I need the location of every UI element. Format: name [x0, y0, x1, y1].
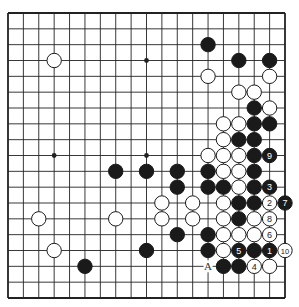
white-stone — [232, 148, 246, 162]
black-stone — [232, 132, 246, 146]
white-stone — [216, 164, 230, 178]
move-number: 6 — [267, 230, 272, 240]
black-stone — [247, 101, 261, 115]
black-stone — [201, 227, 215, 241]
black-stone — [262, 53, 276, 67]
white-stone — [232, 227, 246, 241]
white-stone — [216, 243, 230, 257]
black-stone — [247, 164, 261, 178]
black-stone — [201, 243, 215, 257]
black-stone — [232, 212, 246, 226]
white-stone — [247, 227, 261, 241]
white-stone — [232, 164, 246, 178]
black-stone — [247, 148, 261, 162]
white-stone — [216, 227, 230, 241]
black-stone — [78, 259, 92, 273]
move-number: 10 — [281, 247, 289, 256]
star-point — [144, 58, 149, 63]
black-stone — [139, 243, 153, 257]
white-stone — [185, 212, 199, 226]
black-stone — [216, 180, 230, 194]
go-board: 12345678910 A — [0, 0, 299, 307]
black-stone — [216, 259, 230, 273]
white-stone — [109, 212, 123, 226]
white-stone — [247, 212, 261, 226]
white-stone — [232, 85, 246, 99]
move-number: 3 — [267, 182, 272, 192]
white-stone — [185, 196, 199, 210]
white-stone — [155, 212, 169, 226]
white-stone — [262, 101, 276, 115]
black-stone — [170, 180, 184, 194]
black-stone — [170, 227, 184, 241]
white-stone — [232, 117, 246, 131]
white-stone — [262, 69, 276, 83]
move-number: 8 — [267, 214, 272, 224]
white-stone — [201, 69, 215, 83]
white-stone — [155, 196, 169, 210]
black-stone — [247, 117, 261, 131]
white-stone — [247, 85, 261, 99]
black-stone — [232, 196, 246, 210]
white-stone — [216, 132, 230, 146]
move-number: 2 — [267, 198, 272, 208]
black-stone — [262, 117, 276, 131]
white-stone — [216, 148, 230, 162]
labels: A — [204, 260, 213, 272]
white-stone — [262, 259, 276, 273]
white-stone — [47, 53, 61, 67]
black-stone — [109, 164, 123, 178]
point-label: A — [204, 260, 212, 272]
black-stone — [201, 37, 215, 51]
move-number: 4 — [252, 262, 257, 272]
black-stone — [247, 243, 261, 257]
black-stone — [201, 180, 215, 194]
move-number: 5 — [236, 246, 241, 256]
white-stone — [216, 117, 230, 131]
black-stone — [232, 53, 246, 67]
white-stone — [216, 196, 230, 210]
move-number: 1 — [267, 246, 272, 256]
white-stone — [201, 148, 215, 162]
black-stone — [247, 180, 261, 194]
white-stone — [47, 243, 61, 257]
black-stone — [232, 259, 246, 273]
black-stone — [247, 132, 261, 146]
white-stone — [232, 180, 246, 194]
white-stone — [216, 212, 230, 226]
move-number: 7 — [282, 198, 287, 208]
star-point — [52, 153, 57, 158]
black-stone — [139, 164, 153, 178]
black-stone — [201, 164, 215, 178]
white-stone — [32, 212, 46, 226]
black-stone — [247, 196, 261, 210]
black-stone — [170, 164, 184, 178]
move-number: 9 — [267, 151, 272, 161]
star-point — [144, 153, 149, 158]
